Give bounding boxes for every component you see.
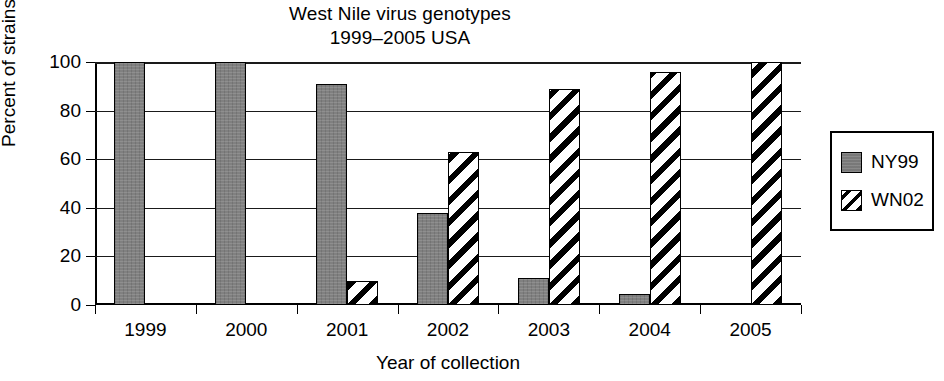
bar-wn02-2003 <box>549 89 580 305</box>
chart-title-line1: West Nile virus genotypes <box>289 3 511 24</box>
y-tick-label: 100 <box>37 51 81 73</box>
legend-item-wn02: WN02 <box>841 181 923 219</box>
y-tick <box>86 111 95 112</box>
x-axis-title: Year of collection <box>95 352 801 374</box>
bar-ny99-2004 <box>619 294 650 305</box>
y-axis-title: Percent of strains <box>0 0 20 183</box>
x-tick-label: 1999 <box>124 319 166 341</box>
bar-wn02-2004 <box>650 72 681 305</box>
y-tick <box>86 159 95 160</box>
y-tick <box>86 256 95 257</box>
x-tick-label: 2000 <box>225 319 267 341</box>
bar-wn02-2005 <box>751 62 782 305</box>
x-tick <box>599 305 600 314</box>
bar-ny99-2000 <box>215 62 246 305</box>
x-tick <box>297 305 298 314</box>
legend-item-ny99: NY99 <box>841 143 923 181</box>
y-tick <box>86 305 95 306</box>
x-tick-label: 2002 <box>427 319 469 341</box>
plot-area: 020406080100 199920002001200220032004200… <box>95 62 801 305</box>
x-tick-label: 2005 <box>729 319 771 341</box>
x-tick <box>801 305 802 314</box>
x-tick <box>398 305 399 314</box>
legend-swatch-ny99-icon <box>841 152 862 173</box>
x-tick-label: 2001 <box>326 319 368 341</box>
legend: NY99 WN02 <box>830 131 934 231</box>
legend-label-ny99: NY99 <box>871 151 919 173</box>
legend-label-wn02: WN02 <box>871 189 924 211</box>
bar-ny99-1999 <box>114 62 145 305</box>
bar-ny99-2001 <box>316 84 347 305</box>
x-tick <box>95 305 96 314</box>
y-tick-label: 40 <box>37 197 81 219</box>
x-tick <box>196 305 197 314</box>
chart-title-line2: 1999–2005 USA <box>0 26 800 50</box>
x-tick-label: 2003 <box>528 319 570 341</box>
gridline <box>95 62 801 64</box>
y-tick <box>86 62 95 63</box>
chart-title: West Nile virus genotypes 1999–2005 USA <box>0 2 800 50</box>
bar-chart: West Nile virus genotypes 1999–2005 USA … <box>0 0 944 381</box>
y-tick-label: 20 <box>37 245 81 267</box>
bar-wn02-2001 <box>347 281 378 305</box>
y-tick-label: 60 <box>37 148 81 170</box>
x-tick <box>498 305 499 314</box>
x-tick <box>700 305 701 314</box>
bar-ny99-2002 <box>417 213 448 305</box>
gridline <box>95 111 801 112</box>
bar-wn02-2002 <box>448 152 479 305</box>
legend-swatch-wn02-icon <box>841 190 862 211</box>
x-tick-label: 2004 <box>629 319 671 341</box>
y-tick-label: 80 <box>37 100 81 122</box>
y-tick <box>86 208 95 209</box>
bar-ny99-2003 <box>518 278 549 305</box>
y-tick-label: 0 <box>37 294 81 316</box>
